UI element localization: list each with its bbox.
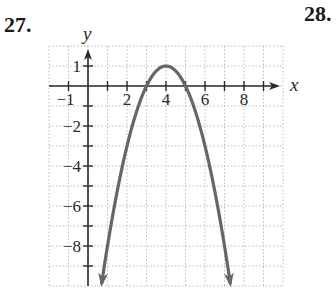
x-tick-label: 2 [123,90,132,109]
y-tick-label: −8 [63,237,81,256]
x-tick-label: 4 [162,90,171,109]
y-tick-label: 1 [73,57,82,76]
x-tick-label: −1 [56,90,74,109]
y-tick-label: −2 [63,117,81,136]
y-tick-label: −4 [63,157,82,176]
x-tick-label: 6 [201,90,210,109]
x-axis-label: x [289,74,299,95]
x-tick-label: 8 [240,90,249,109]
y-axis-label: y [81,23,92,44]
parabola-graph: −124681−2−4−6−8 x y [0,0,336,291]
y-tick-label: −6 [63,197,81,216]
y-axis [83,49,93,286]
